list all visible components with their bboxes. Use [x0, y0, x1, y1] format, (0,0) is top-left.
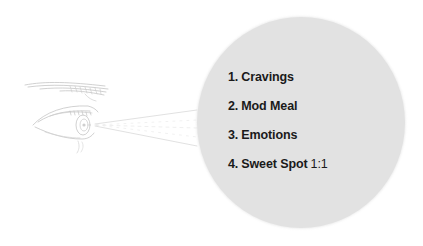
step-ratio: 1:1 — [311, 157, 328, 171]
step-label: Emotions — [241, 128, 297, 142]
step-number: 2. — [228, 99, 238, 113]
steps-list: 1.Cravings 2.Mod Meal 3.Emotions 4.Sweet… — [228, 70, 328, 186]
step-label: Sweet Spot — [241, 157, 307, 171]
step-cravings: 1.Cravings — [228, 70, 328, 99]
step-number: 1. — [228, 70, 238, 84]
step-number: 4. — [228, 157, 238, 171]
step-label: Cravings — [241, 70, 294, 84]
step-emotions: 3.Emotions — [228, 128, 328, 157]
step-label: Mod Meal — [241, 99, 297, 113]
step-sweet-spot: 4.Sweet Spot1:1 — [228, 157, 328, 186]
step-number: 3. — [228, 128, 238, 142]
step-mod-meal: 2.Mod Meal — [228, 99, 328, 128]
